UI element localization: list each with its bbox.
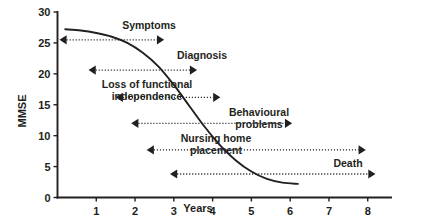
x-axis-tick-label: 2: [132, 206, 138, 217]
chart-axes: [58, 12, 392, 198]
x-axis-tick-label: 1: [93, 206, 99, 217]
y-axis-title: MMSE: [17, 94, 28, 127]
x-axis-tick-label: 3: [171, 206, 177, 217]
stage-arrow-head-right: [368, 169, 375, 178]
stage-arrow: [89, 66, 198, 75]
y-axis-tick-label: 25: [38, 37, 50, 48]
stage-label-death: Death: [333, 158, 362, 170]
stage-arrow-head-right: [213, 93, 220, 102]
mmse-decline-chart: 051015202530 12345678 SymptomsDiagnosisL…: [0, 0, 423, 221]
stage-label-line: independence: [102, 91, 192, 103]
stage-label-line: problems: [229, 119, 289, 131]
stage-arrow-head-left: [131, 119, 138, 128]
stage-arrow-head-left: [147, 145, 154, 154]
y-axis-tick-label: 30: [38, 7, 50, 18]
x-axis-tick-label: 7: [326, 206, 332, 217]
y-axis-tick-label: 0: [44, 192, 50, 203]
stage-arrow-head-left: [89, 66, 96, 75]
y-axis-tick-label: 10: [38, 130, 50, 141]
stage-arrow-head-right: [157, 35, 164, 44]
stage-arrow-head-left: [170, 169, 177, 178]
stage-label-symptoms: Symptoms: [122, 20, 176, 32]
stage-label-line: Death: [333, 158, 362, 170]
stage-arrow: [170, 169, 376, 178]
stage-label-line: Diagnosis: [177, 50, 227, 62]
stage-label-line: Loss of functional: [102, 79, 192, 91]
x-axis-tick-label: 5: [248, 206, 254, 217]
stage-arrow: [147, 145, 366, 154]
stage-arrow-head-left: [59, 35, 66, 44]
stage-arrow-head-right: [190, 66, 197, 75]
stage-label-diagnosis: Diagnosis: [177, 50, 227, 62]
x-axis-tick-label: 6: [287, 206, 293, 217]
stage-label-line: Behavioural: [229, 107, 289, 119]
stage-label-line: Nursing home: [181, 133, 252, 145]
stage-label-line: placement: [181, 145, 252, 157]
stage-label-behavioural-problems: Behaviouralproblems: [229, 107, 289, 130]
x-axis-title: Years: [183, 203, 212, 214]
chart-plot-area: [0, 0, 423, 221]
stage-arrow-head-right: [359, 145, 366, 154]
stage-label-line: Symptoms: [122, 20, 176, 32]
stage-label-loss-of-functional-independence: Loss of functionalindependence: [102, 79, 192, 102]
stage-label-nursing-home-placement: Nursing homeplacement: [181, 133, 252, 156]
y-axis-tick-label: 15: [38, 99, 50, 110]
x-axis-tick-label: 8: [365, 206, 371, 217]
y-axis-tick-label: 5: [44, 161, 50, 172]
y-axis-tick-label: 20: [38, 68, 50, 79]
